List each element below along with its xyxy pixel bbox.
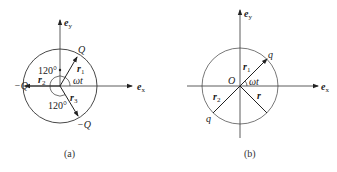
charge-top-label-a: Q bbox=[78, 44, 86, 55]
figure-b: ey ex O q q r1 r2 r ωt (b) bbox=[187, 8, 329, 160]
r-line-b bbox=[240, 86, 267, 113]
r1-label-b: r1 bbox=[243, 61, 251, 74]
axis-x-label-b: ex bbox=[321, 81, 329, 94]
origin-label-b: O bbox=[228, 75, 235, 86]
dot-marker-a bbox=[59, 69, 61, 71]
charge-top-label-b: q bbox=[268, 49, 273, 60]
axis-y-label-b: ey bbox=[244, 8, 252, 21]
axis-x-label-a: ex bbox=[137, 81, 145, 94]
charge-bottom-label-b: q bbox=[206, 113, 211, 124]
r3-label-a: r3 bbox=[70, 92, 78, 105]
caption-a: (a) bbox=[64, 148, 75, 160]
charge-left-label-a: −Q bbox=[14, 80, 29, 91]
angle-120-top-label-a: 120° bbox=[38, 65, 57, 76]
figure-a: ey ex Q −Q −Q r1 r2 r3 120° 120° ωt (a) bbox=[14, 17, 145, 160]
angle-wt-label-a: ωt bbox=[73, 75, 83, 86]
charge-bottom-label-a: −Q bbox=[77, 119, 92, 130]
r2-label-b: r2 bbox=[213, 91, 221, 104]
angle-120-bottom-label-a: 120° bbox=[48, 100, 67, 111]
angle-arc-wt-a bbox=[65, 77, 70, 86]
axis-y-label-a: ey bbox=[64, 17, 72, 30]
r-label-b: r bbox=[257, 90, 261, 101]
angle-arc-wt-b bbox=[245, 81, 247, 86]
angle-wt-label-b: ωt bbox=[249, 76, 259, 87]
caption-b: (b) bbox=[244, 148, 256, 160]
